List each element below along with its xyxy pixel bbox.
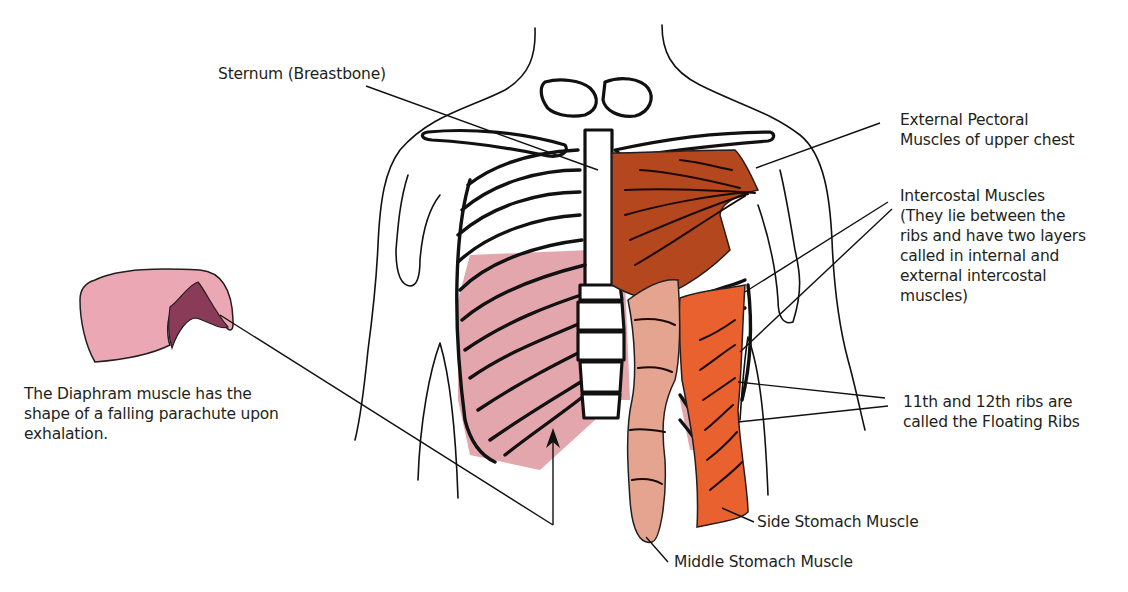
- label-pectoral: External Pectoral Muscles of upper chest: [900, 110, 1074, 150]
- label-diaphragm: The Diaphram muscle has the shape of a f…: [24, 384, 279, 444]
- label-line: called the Floating Ribs: [903, 412, 1080, 432]
- label-line: Muscles of upper chest: [900, 130, 1074, 150]
- label-line: shape of a falling parachute upon: [24, 404, 279, 424]
- diaphragm-illustration: [80, 269, 233, 362]
- side-stomach-muscle: [679, 285, 748, 527]
- label-middle-stomach: Middle Stomach Muscle: [674, 552, 853, 572]
- label-line: ribs and have two layers: [900, 226, 1086, 246]
- label-line: external intercostal: [900, 266, 1086, 286]
- label-line: 11th and 12th ribs are: [903, 392, 1080, 412]
- middle-stomach-muscle: [628, 280, 680, 543]
- label-line: muscles): [900, 286, 1086, 306]
- label-line: (They lie between the: [900, 206, 1086, 226]
- label-line: External Pectoral: [900, 110, 1074, 130]
- pectoral-muscle: [612, 150, 758, 300]
- label-line: Middle Stomach Muscle: [674, 552, 853, 572]
- label-line: The Diaphram muscle has the: [24, 384, 279, 404]
- label-floating-ribs: 11th and 12th ribs are called the Floati…: [903, 392, 1080, 432]
- label-line: exhalation.: [24, 424, 279, 444]
- label-side-stomach: Side Stomach Muscle: [757, 512, 919, 532]
- label-line: Sternum (Breastbone): [218, 64, 386, 84]
- arrow-icon: [546, 428, 560, 525]
- label-line: Intercostal Muscles: [900, 186, 1086, 206]
- label-line: called in internal and: [900, 246, 1086, 266]
- label-line: Side Stomach Muscle: [757, 512, 919, 532]
- label-sternum: Sternum (Breastbone): [218, 64, 386, 84]
- label-intercostal: Intercostal Muscles (They lie between th…: [900, 186, 1086, 306]
